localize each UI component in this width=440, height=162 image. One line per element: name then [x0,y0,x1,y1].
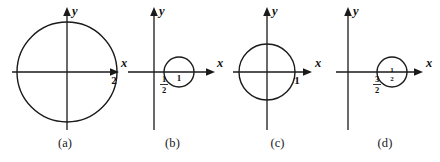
x-axis-label-d: x [425,56,432,70]
figure-four-circle-diagrams: x y 2 (a) x y 1 2 1 [0,0,440,162]
panel-b: x y 1 2 1 (b) [120,0,225,162]
y-axis-arrowhead-b [150,7,158,16]
y-axis-arrowhead-d [344,7,352,16]
center-label-d-half: 1 2 [390,66,394,83]
tick-label-c-1: 1 [294,74,300,86]
fraction-numerator: 1 [390,66,394,74]
center-label-b: 1 [177,73,182,83]
fraction-denominator: 2 [162,85,166,95]
x-axis-arrowhead-d [414,68,423,76]
y-axis-arrowhead-c [263,7,271,16]
fraction-numerator: 1 [162,74,166,84]
fraction-denominator: 2 [375,85,379,95]
panel-a-plot: x y 2 [0,0,130,140]
x-axis-arrowhead-c [303,68,312,76]
panel-c-plot: x y 1 [225,0,330,140]
y-axis-arrowhead-a [63,7,71,16]
panel-a: x y 2 (a) [0,0,130,162]
x-axis-arrowhead-b [206,68,215,76]
tick-label-d-three-halves: 3 2 [373,74,381,95]
panel-b-plot: x y 1 2 1 [120,0,225,140]
caption-d: (d) [330,136,440,151]
fraction-denominator: 2 [390,75,394,83]
fraction-numerator: 3 [375,74,379,84]
caption-a: (a) [0,136,130,151]
x-axis-label-c: x [314,56,321,70]
panel-c: x y 1 (c) [225,0,330,162]
y-axis-label-a: y [70,4,78,18]
caption-c: (c) [225,136,330,151]
tick-label-b-half: 1 2 [160,74,168,95]
tick-label-a-2: 2 [111,74,117,86]
x-axis-label-b: x [216,56,223,70]
caption-b: (b) [120,136,225,151]
y-axis-label-d: y [351,4,359,18]
y-axis-label-b: y [157,4,165,18]
panel-d: x y 3 2 1 2 (d) [330,0,440,162]
y-axis-label-c: y [270,4,278,18]
panel-d-plot: x y 3 2 1 2 [330,0,440,140]
